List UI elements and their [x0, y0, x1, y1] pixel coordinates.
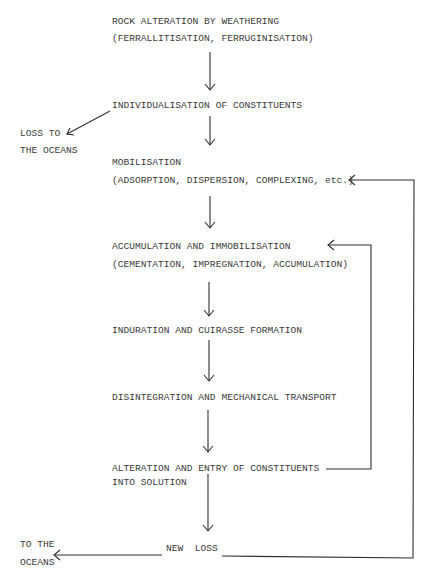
- node-rock-alteration-title: ROCK ALTERATION BY WEATHERING: [112, 17, 279, 27]
- node-to-the-oceans-line2: OCEANS: [20, 558, 55, 568]
- arrow-down-icon: [205, 52, 215, 90]
- node-alteration-entry-title: ALTERATION AND ENTRY OF CONSTITUENTS: [112, 464, 319, 474]
- node-mobilisation-title: MOBILISATION: [112, 158, 181, 168]
- arrow-down-icon: [205, 116, 215, 145]
- node-induration: INDURATION AND CUIRASSE FORMATION: [112, 326, 302, 336]
- node-individualisation: INDIVIDUALISATION OF CONSTITUENTS: [112, 101, 302, 111]
- feedback-arrow-outer-icon: [222, 175, 414, 558]
- node-to-the-oceans-line1: TO THE: [20, 540, 55, 550]
- node-accumulation-title: ACCUMULATION AND IMMOBILISATION: [112, 242, 290, 252]
- arrow-down-icon: [203, 410, 213, 452]
- arrow-down-icon: [204, 340, 214, 381]
- node-loss-to-oceans-line2: THE OCEANS: [20, 146, 78, 156]
- arrow-down-icon: [205, 196, 215, 228]
- connector-lines: [0, 0, 427, 578]
- node-accumulation-subtitle: (CEMENTATION, IMPREGNATION, ACCUMULATION…: [112, 260, 348, 270]
- node-new-loss: NEW LOSS: [166, 544, 218, 554]
- node-mobilisation-subtitle: (ADSORPTION, DISPERSION, COMPLEXING, etc…: [112, 176, 354, 186]
- node-disintegration: DISINTEGRATION AND MECHANICAL TRANSPORT: [112, 393, 337, 403]
- arrow-down-icon: [204, 282, 214, 316]
- arrow-diagonal-icon: [67, 111, 110, 135]
- node-rock-alteration-subtitle: (FERRALLITISATION, FERRUGINISATION): [112, 34, 314, 44]
- arrow-left-icon: [54, 550, 162, 560]
- arrow-down-icon: [203, 474, 213, 531]
- feedback-arrow-inner-icon: [326, 240, 371, 469]
- node-alteration-entry-subtitle: INTO SOLUTION: [112, 478, 187, 488]
- node-loss-to-oceans-line1: LOSS TO: [20, 129, 60, 139]
